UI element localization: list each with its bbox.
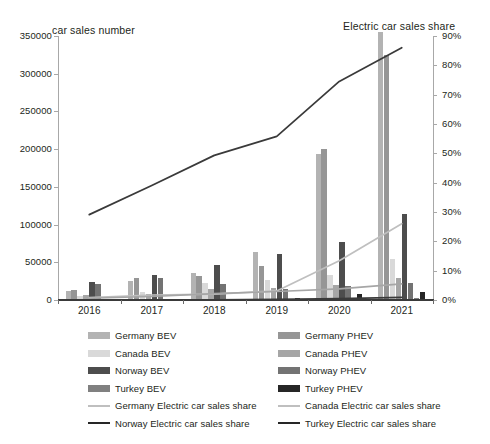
line-series-layer <box>58 36 433 300</box>
y-axis-left-tick-mark <box>54 111 58 112</box>
legend-color-swatch-icon <box>88 350 110 357</box>
y-axis-right-tick-label: 20% <box>442 235 476 246</box>
y-axis-right-tick-label: 90% <box>442 30 476 41</box>
y-axis-left-tick-label: 0 <box>4 294 52 305</box>
y-axis-right-tick-mark <box>434 95 438 96</box>
x-axis-tick-label: 2021 <box>372 305 432 316</box>
y-axis-right-tick-mark <box>434 212 438 213</box>
y-axis-right-line <box>433 36 434 300</box>
y-axis-left-tick-label: 50000 <box>4 256 52 267</box>
electric-car-sales-chart: car sales number Electric car sales shar… <box>0 0 490 444</box>
y-axis-right-tick-label: 0% <box>442 294 476 305</box>
legend-item-label: Germany BEV <box>115 330 176 341</box>
legend-item-label: Germany Electric car sales share <box>115 400 257 411</box>
y-axis-left-tick-label: 100000 <box>4 219 52 230</box>
y-axis-right-tick-label: 40% <box>442 177 476 188</box>
y-axis-left-tick-mark <box>54 36 58 37</box>
legend-item[interactable]: Canada Electric car sales share <box>278 397 441 415</box>
legend-item-label: Turkey Electric car sales share <box>305 418 436 429</box>
legend-color-swatch-icon <box>88 367 110 374</box>
legend-item-label: Canada Electric car sales share <box>305 400 441 411</box>
y-axis-left-tick-label: 350000 <box>4 30 52 41</box>
legend-line-swatch-icon <box>88 405 110 407</box>
legend-color-swatch-icon <box>278 332 300 339</box>
x-axis-tick-mark <box>433 300 434 304</box>
y-axis-right-tick-label: 10% <box>442 265 476 276</box>
y-axis-right-tick-mark <box>434 124 438 125</box>
y-axis-right-tick-mark <box>434 241 438 242</box>
legend-line-swatch-icon <box>278 422 300 424</box>
y-axis-right-tick-label: 60% <box>442 118 476 129</box>
x-axis-tick-mark <box>246 300 247 304</box>
legend-item-label: Canada BEV <box>115 348 170 359</box>
y-axis-right-tick-label: 50% <box>442 147 476 158</box>
y-axis-right-tick-mark <box>434 65 438 66</box>
x-axis-tick-label: 2020 <box>309 305 369 316</box>
legend-line-swatch-icon <box>88 422 110 424</box>
x-axis-tick-label: 2018 <box>184 305 244 316</box>
legend-item[interactable]: Turkey Electric car sales share <box>278 415 441 433</box>
legend-line-swatch-icon <box>278 405 300 407</box>
legend-item[interactable]: Turkey BEV <box>88 380 257 398</box>
legend-color-swatch-icon <box>278 367 300 374</box>
legend-item[interactable]: Germany BEV <box>88 327 257 345</box>
legend-item-label: Norway BEV <box>115 365 169 376</box>
legend-item[interactable]: Turkey PHEV <box>278 380 441 398</box>
legend-color-swatch-icon <box>278 385 300 392</box>
legend-item[interactable]: Norway PHEV <box>278 362 441 380</box>
x-axis-tick-mark <box>121 300 122 304</box>
y-axis-right-tick-mark <box>434 153 438 154</box>
y-axis-left-tick-label: 200000 <box>4 143 52 154</box>
x-axis-tick-mark <box>371 300 372 304</box>
y-axis-left-tick-mark <box>54 149 58 150</box>
y-axis-right-tick-mark <box>434 183 438 184</box>
x-axis-tick-label: 2019 <box>247 305 307 316</box>
x-axis-tick-mark <box>58 300 59 304</box>
legend-item-label: Norway Electric car sales share <box>115 418 250 429</box>
y-axis-right-tick-label: 80% <box>442 59 476 70</box>
legend-item-label: Turkey PHEV <box>305 383 363 394</box>
y-axis-left-tick-mark <box>54 262 58 263</box>
legend-item[interactable]: Germany Electric car sales share <box>88 397 257 415</box>
legend-item[interactable]: Canada PHEV <box>278 345 441 363</box>
line-series <box>89 48 402 215</box>
legend-item-label: Norway PHEV <box>305 365 366 376</box>
y-axis-left-tick-mark <box>54 300 58 301</box>
legend-item[interactable]: Norway BEV <box>88 362 257 380</box>
x-axis-tick-label: 2017 <box>122 305 182 316</box>
legend-column-left: Germany BEVCanada BEVNorway BEVTurkey BE… <box>88 327 257 432</box>
x-axis-tick-label: 2016 <box>59 305 119 316</box>
legend-item[interactable]: Canada BEV <box>88 345 257 363</box>
line-series <box>89 224 402 298</box>
legend-color-swatch-icon <box>88 332 110 339</box>
legend-item-label: Turkey BEV <box>115 383 166 394</box>
y-axis-left-tick-label: 300000 <box>4 68 52 79</box>
x-axis-tick-mark <box>308 300 309 304</box>
legend-item[interactable]: Norway Electric car sales share <box>88 415 257 433</box>
y-axis-right-tick-mark <box>434 36 438 37</box>
legend-item-label: Canada PHEV <box>305 348 367 359</box>
legend-column-right: Germany PHEVCanada PHEVNorway PHEVTurkey… <box>278 327 441 432</box>
y-axis-right-tick-mark <box>434 271 438 272</box>
y-axis-left-tick-label: 250000 <box>4 105 52 116</box>
y-axis-left-tick-mark <box>54 74 58 75</box>
x-axis-tick-mark <box>183 300 184 304</box>
chart-legend: Germany BEVCanada BEVNorway BEVTurkey BE… <box>88 327 486 437</box>
legend-item[interactable]: Germany PHEV <box>278 327 441 345</box>
y-axis-left-tick-label: 150000 <box>4 181 52 192</box>
y-axis-right-tick-mark <box>434 300 438 301</box>
line-series <box>89 284 402 298</box>
right-axis-title: Electric car sales share <box>343 20 455 32</box>
left-axis-title: car sales number <box>52 24 135 36</box>
y-axis-right-tick-label: 70% <box>442 89 476 100</box>
y-axis-right-tick-label: 30% <box>442 206 476 217</box>
y-axis-left-tick-mark <box>54 225 58 226</box>
legend-color-swatch-icon <box>278 350 300 357</box>
legend-color-swatch-icon <box>88 385 110 392</box>
y-axis-left-tick-mark <box>54 187 58 188</box>
legend-item-label: Germany PHEV <box>305 330 373 341</box>
